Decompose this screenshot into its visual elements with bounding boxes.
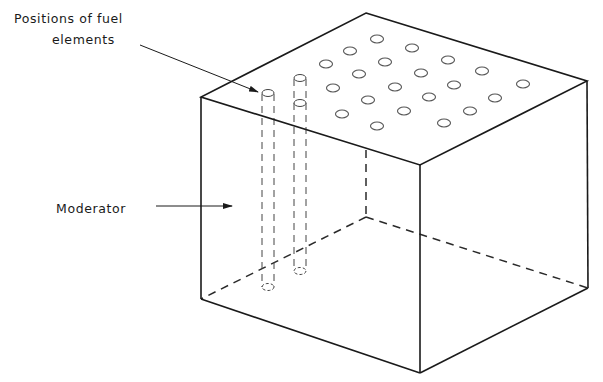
edge-right-vertical [587, 81, 588, 288]
fuel-hole [398, 107, 411, 115]
fuel-hole [489, 94, 502, 102]
fuel-hole [371, 35, 384, 43]
fuel-leader-line [140, 45, 258, 92]
visible-edges [201, 13, 588, 373]
fuel-hole [336, 110, 349, 118]
fuel-positions-label-line2: elements [52, 32, 115, 47]
edge-bottom-right [420, 288, 588, 373]
moderator-label: Moderator [56, 201, 126, 216]
fuel-hole [423, 93, 436, 101]
cube-drawing [0, 0, 603, 382]
fuel-hole [517, 80, 530, 88]
fuel-hole [476, 67, 489, 75]
edge-bottom-left [201, 299, 420, 373]
fuel-hole [371, 122, 384, 130]
fuel-rod-1-top [262, 90, 274, 97]
fuel-rod-2-hole [294, 100, 306, 107]
fuel-hole [448, 81, 461, 89]
fuel-rod-2 [294, 75, 306, 275]
fuel-rod-2-top [294, 75, 306, 82]
hidden-edge-right [366, 217, 588, 288]
fuel-hole [438, 119, 451, 127]
reactor-core-diagram: Positions of fuel elements Moderator [0, 0, 603, 382]
fuel-element-holes [320, 35, 530, 130]
hidden-edges [201, 150, 588, 299]
fuel-hole [389, 83, 402, 91]
fuel-positions-label: Positions of fuel [14, 11, 123, 26]
fuel-hole [320, 60, 333, 68]
fuel-hole [344, 47, 357, 55]
fuel-hole [362, 96, 375, 104]
fuel-hole [415, 69, 428, 77]
fuel-hole [442, 56, 455, 64]
fuel-hole [327, 84, 340, 92]
hidden-edge-left [201, 217, 366, 299]
fuel-hole [353, 70, 366, 78]
fuel-hole [379, 58, 392, 66]
fuel-hole [464, 107, 477, 115]
fuel-hole [406, 44, 419, 52]
